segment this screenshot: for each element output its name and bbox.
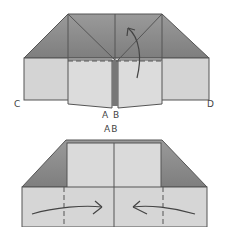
step-2-figure [22, 140, 207, 227]
corner-label-c: C [14, 99, 21, 109]
left-front-panel [68, 60, 112, 108]
step-1-figure [24, 14, 209, 108]
bottom-label-ab: A B [102, 110, 120, 120]
top-label-ab: AB [104, 124, 118, 134]
corner-label-d: D [207, 99, 215, 109]
top-dark-flap [24, 14, 209, 58]
center-gap [112, 60, 118, 106]
right-front-panel [118, 60, 162, 108]
